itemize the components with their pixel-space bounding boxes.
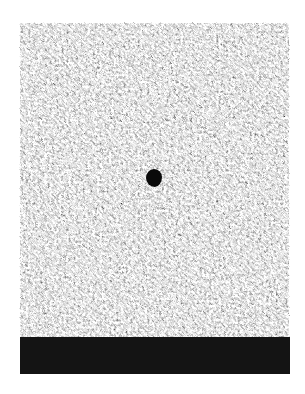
black-band xyxy=(20,337,290,374)
noise-image xyxy=(0,0,305,394)
dark-blob xyxy=(146,169,162,187)
